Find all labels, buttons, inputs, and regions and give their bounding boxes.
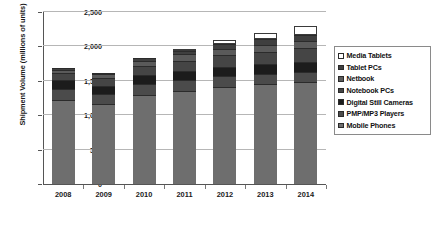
- y-axis-tick-mark: [38, 12, 42, 13]
- bar-segment: [294, 72, 317, 82]
- y-axis-tick-mark: [38, 184, 42, 185]
- bar-segment: [173, 54, 196, 60]
- x-axis-line: [43, 184, 326, 185]
- x-axis-tick-mark: [205, 185, 206, 189]
- y-axis-title: Shipment Volume (millions of units): [18, 0, 27, 150]
- bar-segment: [254, 52, 277, 64]
- bar-segment: [52, 100, 75, 184]
- x-axis-label-2013: 2013: [245, 190, 285, 199]
- bar-segment: [213, 44, 236, 49]
- bar-segment: [92, 104, 115, 184]
- bar-segment: [254, 45, 277, 52]
- legend-item-label: Digital Still Cameras: [347, 98, 413, 107]
- bar-segment: [294, 41, 317, 48]
- legend-item-label: Notebook PCs: [347, 86, 394, 95]
- y-axis-tick-mark: [38, 46, 42, 47]
- bar-segment: [294, 35, 317, 42]
- bar-segment: [254, 64, 277, 74]
- legend-swatch-icon: [338, 88, 344, 94]
- legend-item-label: Media Tablets: [347, 51, 392, 60]
- bar-segment: [133, 58, 156, 60]
- bar-segment: [173, 51, 196, 55]
- x-axis-tick-mark: [245, 185, 246, 189]
- bar-segment: [173, 91, 196, 184]
- bar-segment: [133, 95, 156, 184]
- bar-2013[interactable]: [254, 33, 277, 184]
- bar-segment: [52, 70, 75, 73]
- bar-segment: [52, 68, 75, 70]
- plot-area: [43, 12, 326, 185]
- bar-segment: [92, 73, 115, 75]
- bar-segment: [133, 84, 156, 95]
- legend-swatch-icon: [338, 111, 344, 117]
- bar-segment: [254, 74, 277, 84]
- bar-segment: [52, 80, 75, 88]
- x-axis-tick-mark: [286, 185, 287, 189]
- y-axis-tick-mark: [38, 81, 42, 82]
- y-axis-tick-mark: [38, 115, 42, 116]
- legend-item-netbook[interactable]: Netbook: [338, 73, 428, 85]
- stacked-bar-chart: Shipment Volume (millions of units) 0500…: [0, 0, 433, 227]
- legend-item-tablet-pcs[interactable]: Tablet PCs: [338, 62, 428, 74]
- bar-2008[interactable]: [52, 68, 75, 184]
- bar-segment: [173, 61, 196, 71]
- bar-segment: [173, 71, 196, 80]
- legend-item-media-tablets[interactable]: Media Tablets: [338, 50, 428, 62]
- legend-item-pmp-mp3-players[interactable]: PMP/MP3 Players: [338, 108, 428, 120]
- bar-segment: [213, 67, 236, 77]
- bar-segment: [294, 82, 317, 184]
- bar-segment: [92, 78, 115, 86]
- x-axis-label-2012: 2012: [205, 190, 245, 199]
- bar-segment: [254, 39, 277, 45]
- legend-swatch-icon: [338, 123, 344, 129]
- legend-swatch-icon: [338, 76, 344, 82]
- bar-segment: [173, 49, 196, 51]
- legend-swatch-icon: [338, 65, 344, 71]
- y-axis-tick-mark: [38, 150, 42, 151]
- bar-segment: [133, 61, 156, 66]
- bar-segment: [294, 48, 317, 61]
- x-axis-label-2010: 2010: [124, 190, 164, 199]
- bar-segment: [133, 75, 156, 84]
- bar-segment: [92, 86, 115, 95]
- bar-2012[interactable]: [213, 40, 236, 184]
- x-axis-tick-mark: [124, 185, 125, 189]
- bar-segment: [254, 33, 277, 39]
- bar-segment: [294, 26, 317, 35]
- bar-segment: [213, 87, 236, 184]
- gridline: [43, 45, 326, 46]
- legend-item-mobile-phones[interactable]: Mobile Phones: [338, 120, 428, 132]
- x-axis-tick-mark: [326, 185, 327, 189]
- legend-item-label: PMP/MP3 Players: [347, 109, 405, 118]
- bar-segment: [254, 84, 277, 184]
- legend-item-digital-still-cameras[interactable]: Digital Still Cameras: [338, 96, 428, 108]
- legend-item-label: Netbook: [347, 74, 375, 83]
- bar-segment: [133, 66, 156, 75]
- bar-segment: [213, 55, 236, 66]
- x-axis-label-2009: 2009: [84, 190, 124, 199]
- bar-segment: [52, 89, 75, 100]
- bar-segment: [173, 80, 196, 91]
- legend-item-label: Mobile Phones: [347, 121, 396, 130]
- bar-segment: [92, 94, 115, 104]
- legend-swatch-icon: [338, 99, 344, 105]
- legend: Media TabletsTablet PCsNetbookNotebook P…: [334, 46, 431, 135]
- x-axis-label-2011: 2011: [165, 190, 205, 199]
- bar-2014[interactable]: [294, 26, 317, 184]
- gridline: [43, 11, 326, 12]
- bar-2009[interactable]: [92, 73, 115, 184]
- legend-swatch-icon: [338, 53, 344, 59]
- x-axis-label-2008: 2008: [43, 190, 83, 199]
- legend-item-label: Tablet PCs: [347, 63, 382, 72]
- bar-2011[interactable]: [173, 49, 196, 184]
- x-axis-label-2014: 2014: [286, 190, 326, 199]
- y-axis-line: [43, 12, 44, 185]
- bar-segment: [294, 62, 317, 72]
- x-axis-tick-mark: [83, 185, 84, 189]
- bar-2010[interactable]: [133, 58, 156, 184]
- bar-segment: [52, 73, 75, 81]
- legend-item-notebook-pcs[interactable]: Notebook PCs: [338, 85, 428, 97]
- bar-segment: [213, 76, 236, 87]
- bar-segment: [213, 40, 236, 44]
- x-axis-tick-mark: [164, 185, 165, 189]
